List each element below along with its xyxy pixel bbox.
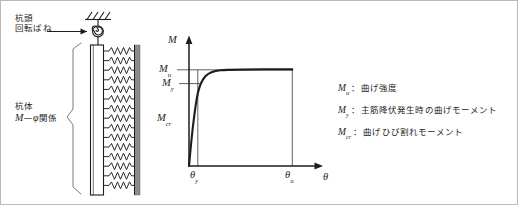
y-axis-arrowhead xyxy=(186,36,193,45)
x-tick-label-theta-y: θy xyxy=(190,169,198,182)
y-axis-title: M xyxy=(168,34,177,45)
x-tick-theta-y-sub: y xyxy=(195,177,198,184)
chart-axes xyxy=(186,36,323,170)
legend-item-mcr: Mcr ： 曲げひび割れモーメント xyxy=(338,125,463,139)
legend-my-description: 主筋降伏発生時の曲げモーメント xyxy=(361,103,498,115)
y-tick-label-mu: Mu xyxy=(159,63,171,76)
x-tick-theta-u-sub: u xyxy=(290,177,293,184)
x-tick-label-theta-u: θu xyxy=(285,169,294,182)
legend-mu-separator: ： xyxy=(349,81,361,93)
y-tick-mu-sym: M xyxy=(159,63,168,74)
legend-mcr-description: 曲げひび割れモーメント xyxy=(363,125,463,137)
legend-my-symbol: My xyxy=(338,105,349,117)
legend-my-separator: ： xyxy=(349,103,361,115)
x-axis-arrowhead xyxy=(315,163,324,170)
legend-mcr-symbol: Mcr xyxy=(338,127,351,139)
legend-mu-description: 曲げ強度 xyxy=(361,81,397,93)
legend-item-my: My ： 主筋降伏発生時の曲げモーメント xyxy=(338,103,497,117)
y-tick-my-sym: M xyxy=(162,77,171,88)
y-tick-label-my: My xyxy=(162,77,174,90)
x-axis-title: θ xyxy=(323,171,328,182)
y-tick-my-sub: y xyxy=(171,85,174,92)
y-tick-mcr-sub: cr xyxy=(166,120,172,127)
legend-mu-symbol: Mu xyxy=(338,83,349,95)
figure-pile-moment-rotation: 杭頭 回転ばね 杭体 M — φ 関係 xyxy=(0,0,518,205)
y-tick-label-mcr: Mcr xyxy=(157,112,171,125)
moment-rotation-curve xyxy=(189,69,292,166)
legend-mcr-separator: ： xyxy=(351,125,363,137)
y-tick-mcr-sym: M xyxy=(157,112,166,123)
legend-item-mu: Mu ： 曲げ強度 xyxy=(338,81,398,95)
